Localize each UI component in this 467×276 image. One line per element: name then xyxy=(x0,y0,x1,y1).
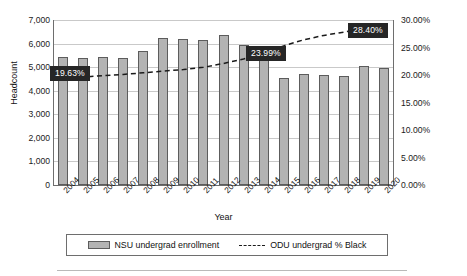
y-axis-left-tick: 3,000 xyxy=(28,109,50,119)
bar-series-nsu-undergrad-enrollment xyxy=(53,20,394,185)
bar xyxy=(138,51,148,185)
bar xyxy=(158,38,168,185)
y-axis-left-tick: 5,000 xyxy=(28,62,50,72)
bar xyxy=(239,45,249,185)
y-axis-title: Headcount xyxy=(9,43,19,123)
bar xyxy=(359,66,369,185)
legend-item-bar: NSU undergrad enrollment xyxy=(88,240,220,250)
y-axis-left-tick: 1,000 xyxy=(28,156,50,166)
y-axis-right-tick: 10.00% xyxy=(401,125,430,135)
y-axis-right-tick: 25.00% xyxy=(401,43,430,53)
legend-bar-swatch-icon xyxy=(88,241,110,249)
bar xyxy=(98,57,108,185)
chart-legend: NSU undergrad enrollment ODU undergrad %… xyxy=(66,234,388,256)
y-axis-right-tick: 20.00% xyxy=(401,70,430,80)
y-axis-left-tick: 4,000 xyxy=(28,86,50,96)
bar xyxy=(299,74,309,185)
y-axis-left-tick: 6,000 xyxy=(28,39,50,49)
y-axis-left-tick: 7,000 xyxy=(28,15,50,25)
legend-line-label: ODU undergrad % Black xyxy=(270,240,366,250)
callout-2005: 19.63% xyxy=(50,66,90,81)
legend-item-line: ODU undergrad % Black xyxy=(239,240,366,250)
y-axis-right-tick: 0.00% xyxy=(401,180,425,190)
bar xyxy=(118,58,128,185)
y-axis-left-ticks: 7,0006,0005,0004,0003,0002,0001,0000 xyxy=(0,0,50,276)
bar xyxy=(339,76,349,185)
bar xyxy=(219,35,229,185)
chart-container: 7,0006,0005,0004,0003,0002,0001,0000 30.… xyxy=(0,0,467,276)
y-axis-left-tick: 0 xyxy=(45,180,50,190)
callout-2019: 28.40% xyxy=(348,23,388,38)
legend-bar-label: NSU undergrad enrollment xyxy=(115,240,220,250)
y-axis-left-tick: 2,000 xyxy=(28,133,50,143)
x-axis-title: Year xyxy=(53,212,394,222)
footer-divider xyxy=(57,270,407,271)
bar xyxy=(319,75,329,185)
legend-dashed-line-icon xyxy=(239,245,265,246)
bar xyxy=(178,39,188,185)
bar xyxy=(259,48,269,185)
bar xyxy=(279,78,289,185)
y-axis-right-tick: 15.00% xyxy=(401,98,430,108)
y-axis-right-tick: 30.00% xyxy=(401,15,430,25)
bar xyxy=(379,68,389,185)
callout-2014: 23.99% xyxy=(246,46,286,61)
y-axis-right-ticks: 30.00%25.00%20.00%15.00%10.00%5.00%0.00% xyxy=(401,0,467,276)
y-axis-right-tick: 5.00% xyxy=(401,153,425,163)
bar xyxy=(198,40,208,185)
